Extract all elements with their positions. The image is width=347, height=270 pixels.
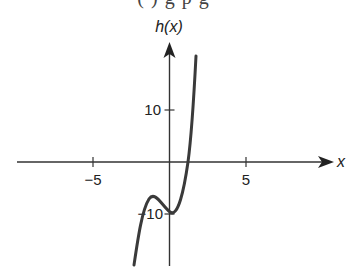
x-tick-label-5: 5 (242, 171, 250, 188)
x-axis-label: x (336, 153, 346, 170)
curve-h-of-x (134, 56, 196, 265)
y-tick-label-10: 10 (144, 101, 161, 118)
function-graph: −5 5 10 −10 h(x) x (0, 0, 347, 270)
y-axis-label: h(x) (155, 18, 183, 35)
x-tick-label-neg5: −5 (84, 171, 101, 188)
